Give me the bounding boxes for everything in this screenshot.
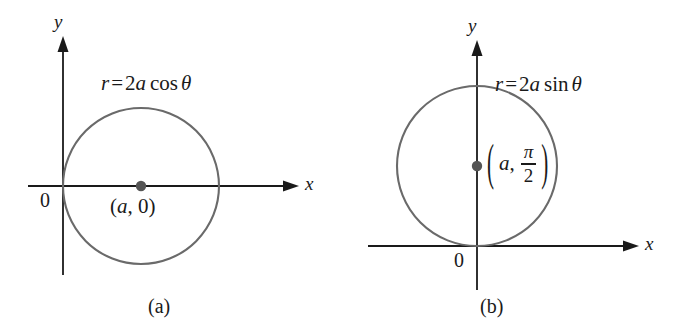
equation-equals: = (503, 72, 519, 96)
origin-label: 0 (454, 250, 464, 270)
equation-lhs: r (101, 71, 109, 95)
equation-coefficient: 2 (125, 71, 136, 95)
coord-body: a, π 2 (495, 142, 540, 185)
equation-function: sin (540, 72, 569, 96)
y-axis-label: y (468, 16, 476, 35)
center-point-label: (a, 0) (110, 196, 156, 217)
coord-theta-fraction: π 2 (521, 142, 537, 185)
panel-caption-b: (b) (480, 296, 503, 316)
coord-open-paren: ( (486, 138, 495, 189)
equation-equals: = (109, 71, 125, 95)
fraction-denominator: 2 (521, 165, 537, 186)
center-point-dot (136, 181, 146, 191)
x-axis (28, 181, 299, 192)
panel-a-graph (0, 0, 340, 336)
center-point-label: ( a, π 2 ) (486, 142, 549, 185)
polar-circles-figure: y x 0 r=2acosθ (a, 0) (a) (0, 0, 679, 336)
coord-open-paren: ( (110, 194, 117, 218)
coord-comma: , (128, 194, 133, 218)
panel-b: y x 0 r=2asinθ ( a, π 2 ) (b) (340, 0, 679, 336)
coord-close-paren: ) (149, 194, 156, 218)
equation-label-cos: r=2acosθ (101, 73, 191, 94)
equation-lhs: r (495, 72, 503, 96)
coord-r-value: a (499, 151, 510, 176)
origin-label: 0 (40, 190, 50, 210)
y-axis (58, 36, 69, 275)
coord-comma: , (510, 151, 521, 176)
equation-amplitude: a (530, 72, 541, 96)
equation-coefficient: 2 (519, 72, 530, 96)
equation-amplitude: a (136, 71, 147, 95)
center-point-dot (472, 161, 482, 171)
y-axis-label: y (54, 12, 62, 31)
equation-angle: θ (178, 71, 191, 95)
x-axis-label: x (645, 234, 653, 253)
equation-label-sin: r=2asinθ (495, 74, 582, 95)
fraction-numerator: π (521, 142, 537, 163)
coord-close-paren: ) (540, 138, 549, 189)
equation-angle: θ (569, 72, 582, 96)
equation-function: cos (146, 71, 178, 95)
coord-r-value: a (117, 194, 128, 218)
panel-caption-a: (a) (148, 296, 170, 316)
x-axis-label: x (305, 174, 313, 193)
panel-a: y x 0 r=2acosθ (a, 0) (a) (0, 0, 340, 336)
coord-theta-value: 0 (138, 194, 149, 218)
